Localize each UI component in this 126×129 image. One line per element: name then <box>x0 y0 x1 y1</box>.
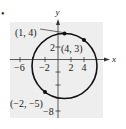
x-tick-label-neg6: −6 <box>14 62 25 73</box>
y-axis-label: y <box>55 7 60 17</box>
point-label-4-3: (4, 3) <box>61 43 83 55</box>
circle-graph: • x y −6 −2 2 4 2 −8 (1, 4) (4, 3) (−2, … <box>0 0 126 129</box>
point-label-neg2-neg5: (−2, −5) <box>10 98 43 110</box>
x-axis-arrow-icon <box>104 58 110 62</box>
x-tick-label-neg2: −2 <box>39 62 50 73</box>
point-4-3 <box>82 38 86 42</box>
x-tick-label-2: 2 <box>69 62 74 73</box>
x-axis-label: x <box>111 54 116 64</box>
y-tick-label-2: 2 <box>50 42 55 53</box>
point-label-1-4: (1, 4) <box>15 27 37 39</box>
point-neg2-neg5 <box>43 90 47 94</box>
problem-bullet: • <box>1 8 5 19</box>
y-tick-label-neg8: −8 <box>43 106 54 117</box>
x-tick-label-4: 4 <box>82 62 87 73</box>
point-1-4 <box>63 32 67 36</box>
